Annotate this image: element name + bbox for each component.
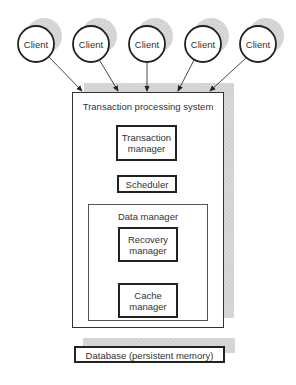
database-box: Database (persistent memory) — [74, 346, 225, 363]
transaction-manager-line2: manager — [118, 143, 175, 154]
client-node-3: Client — [129, 39, 165, 50]
recovery-manager-line1: Recovery — [120, 234, 176, 245]
cache-manager-line2: manager — [120, 301, 176, 312]
transaction-manager-box: Transaction manager — [116, 125, 177, 161]
scheduler-box: Scheduler — [117, 175, 177, 193]
system-title: Transaction processing system — [73, 101, 223, 112]
client-node-2: Client — [73, 39, 109, 50]
database-label: Database (persistent memory) — [76, 350, 223, 361]
transaction-manager-line1: Transaction — [118, 132, 175, 143]
client-node-1: Client — [18, 39, 54, 50]
scheduler-label: Scheduler — [119, 179, 175, 190]
recovery-manager-box: Recovery manager — [118, 227, 178, 262]
cache-manager-box: Cache manager — [118, 283, 178, 318]
data-manager-title: Data manager — [89, 211, 207, 222]
client-node-5: Client — [240, 39, 276, 50]
client-node-4: Client — [185, 39, 221, 50]
cache-manager-line1: Cache — [120, 290, 176, 301]
recovery-manager-line2: manager — [120, 245, 176, 256]
